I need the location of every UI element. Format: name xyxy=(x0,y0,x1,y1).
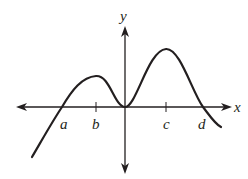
function-curve xyxy=(32,49,221,157)
y-axis-label: y xyxy=(118,8,127,24)
tick-label-b: b xyxy=(92,116,100,132)
tick-label-a: a xyxy=(60,116,68,132)
tick-label-c: c xyxy=(163,116,170,132)
function-graph: x y a b c d xyxy=(0,0,248,179)
tick-label-d: d xyxy=(198,116,206,132)
x-axis-label: x xyxy=(233,99,241,115)
y-axis: y xyxy=(118,8,129,174)
